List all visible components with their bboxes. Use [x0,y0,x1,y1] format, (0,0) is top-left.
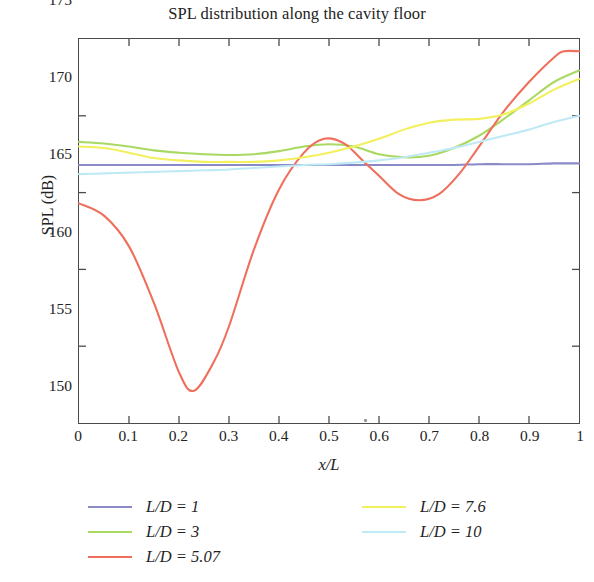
x-tick-label: 0.8 [460,428,500,444]
x-axis-label: x/L [78,455,580,475]
legend-line-swatch [88,531,132,533]
legend-item[interactable]: L/D = 3 [88,519,220,544]
legend-item[interactable]: L/D = 1 [88,494,220,519]
x-tick-label: 0.3 [209,428,249,444]
y-tick-label: 155 [28,301,72,317]
x-tick-label: 0.4 [259,428,299,444]
chart-title: SPL distribution along the cavity floor [0,4,594,24]
legend-item-label: L/D = 5.07 [146,547,220,567]
legend-item[interactable]: L/D = 7.6 [362,494,486,519]
plot-area [78,38,580,424]
y-axis-tick-labels: 175170165160155150 [24,0,72,386]
x-tick-label: 0.5 [309,428,349,444]
series-line-2 [79,51,579,391]
legend-line-swatch [88,556,132,558]
legend-item[interactable]: L/D = 5.07 [88,544,220,569]
x-tick-label: 1 [560,428,594,444]
y-tick-label: 175 [28,0,72,8]
x-tick-label: 0.1 [108,428,148,444]
legend-line-swatch [362,531,406,533]
legend-column-left: L/D = 1L/D = 3L/D = 5.07 [88,494,220,569]
x-tick-label: 0.9 [510,428,550,444]
y-tick-label: 165 [28,146,72,162]
x-tick-label: 0.2 [158,428,198,444]
legend: L/D = 1L/D = 3L/D = 5.07 L/D = 7.6L/D = … [78,494,580,578]
figure: SPL distribution along the cavity floor … [0,0,594,582]
y-tick-label: 150 [28,378,72,394]
x-tick-label: 0.7 [409,428,449,444]
legend-line-swatch [88,506,132,508]
legend-item[interactable]: L/D = 10 [362,519,486,544]
legend-item-label: L/D = 1 [146,497,199,517]
x-tick-label: 0 [58,428,98,444]
y-tick-label: 160 [28,224,72,240]
series-lines [79,39,579,423]
x-tick-label: 0.6 [359,428,399,444]
legend-line-swatch [362,506,406,508]
x-axis-tick-labels: 00.10.20.30.40.50.60.70.80.91 [78,428,580,450]
legend-item-label: L/D = 10 [420,522,482,542]
legend-item-label: L/D = 3 [146,522,199,542]
legend-item-label: L/D = 7.6 [420,497,486,517]
legend-column-right: L/D = 7.6L/D = 10 [362,494,486,544]
y-tick-label: 170 [28,69,72,85]
scan-artifact-dot [364,419,367,422]
